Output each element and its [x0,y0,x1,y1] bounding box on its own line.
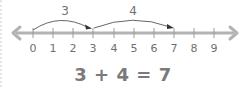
tick-label-5: 5 [131,42,138,55]
tick-label-7: 7 [171,42,178,55]
tick-label-2: 2 [70,42,77,55]
number-line-diagram: 0 1 2 3 4 5 6 7 8 9 3 4 [0,0,246,64]
equation-plus: + [94,64,110,85]
jump-label-1: 3 [61,4,69,18]
arrowhead-icon [85,25,92,30]
tick-label-8: 8 [191,42,198,55]
equation-addend-2: 4 [116,64,129,85]
tick-label-0: 0 [30,42,37,55]
tick-label-9: 9 [211,42,218,55]
tick-label-1: 1 [50,42,57,55]
jump-label-2: 4 [129,4,137,18]
tick-label-3: 3 [90,42,97,55]
tick-label-6: 6 [151,42,158,55]
tick-label-4: 4 [111,42,118,55]
jump-arc-1 [33,20,89,30]
equation-addend-1: 3 [74,64,87,85]
equation-sum: 7 [159,64,172,85]
arrowhead-icon [167,24,174,29]
equation: 3 + 4 = 7 [0,64,246,86]
equation-equals: = [136,64,152,85]
jump-arc-2 [94,20,170,28]
